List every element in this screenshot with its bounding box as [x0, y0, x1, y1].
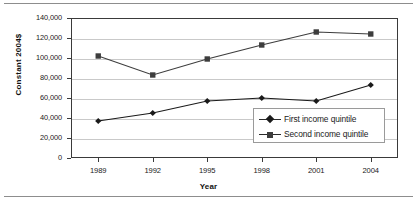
y-axis-tick-label: 40,000 [0, 114, 62, 122]
y-axis-tick-label: 60,000 [0, 94, 62, 102]
square-marker-icon [259, 129, 281, 140]
square-marker-icon [205, 56, 210, 61]
x-axis-tick-mark [153, 158, 154, 162]
x-axis-title: Year [0, 182, 417, 191]
x-axis-tick-mark [371, 158, 372, 162]
y-axis-tick-label: 0 [0, 154, 62, 162]
line-chart: Constant 2004$ 020,00040,00060,00080,000… [0, 0, 417, 196]
diamond-marker-icon [368, 82, 374, 88]
x-axis-tick-mark [207, 158, 208, 162]
x-axis-tick-mark [316, 158, 317, 162]
y-axis-tick-label: 100,000 [0, 54, 62, 62]
bottom-divider-rule [4, 196, 413, 197]
x-axis-tick-mark [98, 158, 99, 162]
x-axis-tick-label: 1992 [131, 166, 175, 175]
x-axis-tick-label: 2001 [294, 166, 338, 175]
y-axis-tick-label: 140,000 [0, 14, 62, 22]
legend-item-second: Second income quintile [259, 127, 379, 142]
square-marker-icon [150, 72, 155, 77]
square-marker-icon [96, 53, 101, 58]
y-axis-tick-label: 20,000 [0, 134, 62, 142]
diamond-marker-icon [204, 98, 210, 104]
diamond-marker-icon [150, 110, 156, 116]
square-marker-icon [368, 31, 373, 36]
y-axis-tick-mark [67, 158, 71, 159]
x-axis-tick-mark [262, 158, 263, 162]
y-axis-tick-label: 80,000 [0, 74, 62, 82]
legend-label-second: Second income quintile [281, 129, 368, 140]
y-axis-tick-label: 120,000 [0, 34, 62, 42]
series-line-second [98, 32, 371, 75]
x-axis-tick-label: 1998 [240, 166, 284, 175]
x-axis-tick-label: 1995 [185, 166, 229, 175]
diamond-marker-icon [313, 98, 319, 104]
diamond-marker-icon [259, 95, 265, 101]
chart-page: Constant 2004$ 020,00040,00060,00080,000… [0, 0, 417, 206]
legend-item-first: First income quintile [259, 112, 379, 127]
square-marker-icon [314, 29, 319, 34]
diamond-marker-icon [259, 114, 281, 125]
x-axis-tick-label: 2004 [349, 166, 393, 175]
diamond-marker-icon [95, 118, 101, 124]
square-marker-icon [259, 42, 264, 47]
legend-label-first: First income quintile [281, 114, 356, 125]
chart-legend: First income quintile Second income quin… [253, 108, 385, 143]
x-axis-tick-label: 1989 [76, 166, 120, 175]
